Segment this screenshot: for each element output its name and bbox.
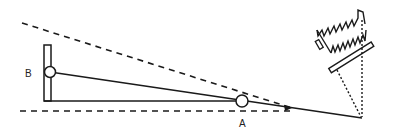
diagram-canvas: B A	[0, 0, 397, 132]
projection-line-left	[337, 70, 361, 117]
pivot-a	[236, 95, 248, 107]
device-knob	[315, 40, 323, 50]
device-housing-top	[317, 10, 365, 36]
upper-dashed-sightline	[22, 23, 292, 108]
label-a: A	[239, 118, 246, 129]
arrowhead	[284, 105, 292, 111]
device-plate	[329, 42, 374, 73]
device-assembly	[315, 10, 374, 117]
label-b: B	[25, 68, 32, 79]
beam-line	[50, 72, 362, 118]
pivot-b	[45, 67, 56, 78]
